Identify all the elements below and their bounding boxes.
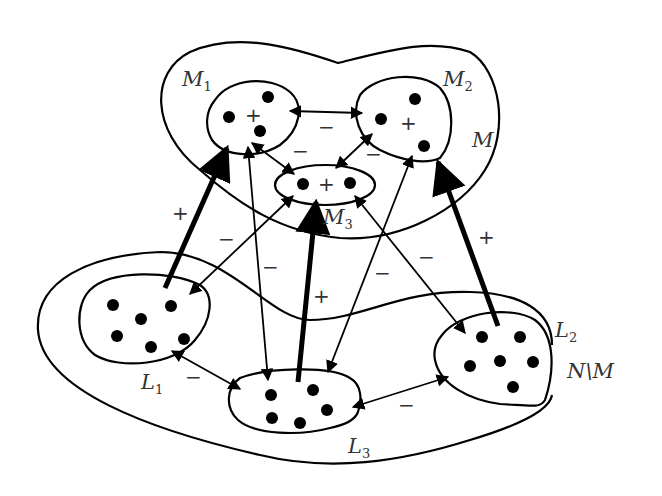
edge-sign: − <box>374 261 391 285</box>
edge-l2-m3 <box>355 196 465 333</box>
member-dot <box>307 384 319 396</box>
group-l2-label: L2 <box>554 318 577 345</box>
member-dot <box>265 389 277 401</box>
edge-l1-l3 <box>172 351 240 389</box>
group-l3-label: L3 <box>347 434 370 461</box>
member-dot <box>297 178 309 190</box>
edge-sign: − <box>418 245 435 269</box>
member-dot <box>418 140 430 152</box>
member-dot <box>262 91 274 103</box>
graph-diagram: + + + − − − + − − + − − + <box>0 0 662 496</box>
member-dot <box>476 331 488 343</box>
edge-sign: + <box>172 201 189 225</box>
edge-sign: − <box>292 139 309 163</box>
edge-sign: − <box>218 227 235 251</box>
region-m-label: M <box>471 128 494 152</box>
edge-sign: − <box>318 115 335 139</box>
member-dot <box>107 299 119 311</box>
edge-sign: − <box>398 393 415 417</box>
group-m3-label: M3 <box>322 205 353 232</box>
edge-m1-m2 <box>290 111 362 113</box>
edge-sign: − <box>262 255 279 279</box>
group-m2-label: M2 <box>442 67 473 94</box>
member-dot <box>135 313 147 325</box>
edge-l1-m3 <box>190 196 293 294</box>
member-dot <box>464 360 476 372</box>
member-dot <box>321 404 333 416</box>
member-dot <box>178 333 190 345</box>
member-dot <box>375 113 387 125</box>
group-m2-sign: + <box>400 111 417 135</box>
member-dot <box>344 177 356 189</box>
member-dot <box>494 355 506 367</box>
group-m3-sign: + <box>318 172 335 196</box>
region-n-minus-m-label: N\M <box>566 359 614 383</box>
group-m1-sign: + <box>245 103 262 127</box>
group-l1-label: L1 <box>140 370 163 397</box>
member-dot <box>165 300 177 312</box>
edge-sign: + <box>313 284 330 308</box>
member-dot <box>294 417 306 429</box>
member-dot <box>507 381 519 393</box>
member-dot <box>409 93 421 105</box>
edge-sign: − <box>365 142 382 166</box>
edge-l3-m2 <box>328 156 412 372</box>
group-m1-label: M1 <box>181 67 212 94</box>
member-dot <box>111 330 123 342</box>
member-dot <box>145 341 157 353</box>
member-dot <box>266 412 278 424</box>
edge-sign: + <box>478 225 495 249</box>
region-n-minus-m-outline <box>38 252 552 464</box>
edge-sign: − <box>185 365 202 389</box>
member-dot <box>527 356 539 368</box>
member-dot <box>514 331 526 343</box>
member-dot <box>223 111 235 123</box>
